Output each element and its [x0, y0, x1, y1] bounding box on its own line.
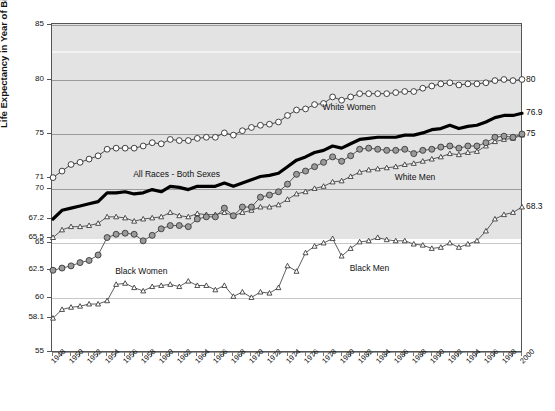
- data-point: [104, 146, 110, 152]
- data-point: [348, 94, 354, 100]
- y-tick-mark: [47, 133, 51, 134]
- data-point: [105, 298, 110, 303]
- data-point: [249, 125, 255, 131]
- data-point: [447, 80, 453, 86]
- data-point: [123, 281, 128, 286]
- data-point: [519, 77, 525, 83]
- data-point: [122, 145, 128, 151]
- y-tick-label: 60: [0, 293, 44, 301]
- y-tick-mark: [47, 24, 51, 25]
- data-point: [149, 232, 155, 238]
- data-point: [96, 221, 101, 226]
- data-point: [384, 147, 390, 153]
- y-end-label: 75: [526, 129, 535, 137]
- y-tick-label: 58.1: [0, 313, 44, 321]
- data-point: [375, 91, 381, 97]
- data-point: [303, 250, 308, 255]
- data-point: [366, 145, 372, 151]
- series-all-races-both-sexes: [53, 113, 522, 219]
- data-point: [303, 168, 309, 174]
- data-point: [113, 231, 119, 237]
- y-tick-label: 70: [0, 184, 44, 192]
- data-point: [195, 211, 200, 216]
- data-point: [474, 143, 480, 149]
- data-point: [330, 236, 335, 241]
- y-tick-mark: [47, 351, 51, 352]
- data-point: [483, 140, 489, 146]
- data-point: [285, 181, 291, 187]
- data-point: [510, 78, 516, 84]
- data-point: [212, 214, 218, 220]
- data-point: [402, 89, 408, 95]
- series-label-white-women: White Women: [323, 102, 376, 112]
- data-point: [131, 231, 137, 237]
- data-point: [492, 216, 497, 221]
- data-point: [357, 91, 363, 97]
- y-tick-mark: [47, 79, 51, 80]
- data-point: [167, 137, 173, 143]
- data-point: [185, 138, 191, 144]
- data-point: [285, 113, 291, 119]
- data-point: [239, 204, 245, 210]
- data-point: [285, 197, 290, 202]
- y-tick-mark: [47, 237, 51, 238]
- data-point: [303, 106, 309, 112]
- data-point: [158, 141, 164, 147]
- data-point: [501, 133, 507, 139]
- data-point: [411, 89, 417, 95]
- series-label-black-women: Black Women: [115, 266, 167, 276]
- series-svg-layer: [52, 24, 523, 353]
- data-point: [77, 260, 83, 266]
- series-label-all-races-both-sexes: All Races - Both Sexes: [133, 169, 220, 179]
- data-point: [95, 252, 101, 258]
- data-point: [194, 216, 200, 222]
- data-point: [339, 158, 345, 164]
- data-point: [447, 143, 453, 149]
- data-point: [68, 263, 74, 269]
- life-expectancy-chart: Life Expectancy in Year of Birth 8580757…: [0, 0, 555, 411]
- data-point: [510, 134, 516, 140]
- data-point: [168, 282, 173, 287]
- data-point: [411, 151, 417, 157]
- data-point: [474, 81, 480, 87]
- data-point: [294, 171, 300, 177]
- y-tick-mark: [47, 242, 51, 243]
- y-end-label: 68.3: [526, 202, 543, 210]
- data-point: [438, 245, 443, 250]
- data-point: [357, 146, 363, 152]
- data-point: [294, 107, 300, 113]
- data-point: [50, 175, 56, 181]
- data-point: [249, 295, 254, 300]
- data-point: [492, 78, 498, 84]
- data-point: [50, 267, 56, 273]
- data-point: [230, 132, 236, 138]
- data-point: [276, 285, 281, 290]
- data-point: [86, 156, 92, 162]
- y-end-label: 80: [526, 75, 535, 83]
- data-point: [212, 134, 218, 140]
- data-point: [447, 151, 452, 156]
- data-point: [203, 214, 209, 220]
- series-black-men: [51, 204, 525, 320]
- data-point: [321, 240, 326, 245]
- data-point: [393, 90, 399, 96]
- data-point: [402, 146, 408, 152]
- y-tick-label: 85: [0, 20, 44, 28]
- data-point: [159, 214, 164, 219]
- data-point: [176, 223, 182, 229]
- data-point: [149, 140, 155, 146]
- data-point: [59, 168, 65, 174]
- data-point: [122, 230, 128, 236]
- data-point: [194, 135, 200, 141]
- y-tick-label: 55: [0, 347, 44, 355]
- data-point: [429, 83, 435, 89]
- y-tick-label: 75: [0, 129, 44, 137]
- data-point: [240, 128, 246, 134]
- data-point: [420, 147, 426, 153]
- data-point: [429, 146, 435, 152]
- data-point: [285, 263, 290, 268]
- data-point: [312, 102, 318, 108]
- data-point: [275, 189, 281, 195]
- data-point: [230, 213, 236, 219]
- data-point: [257, 194, 263, 200]
